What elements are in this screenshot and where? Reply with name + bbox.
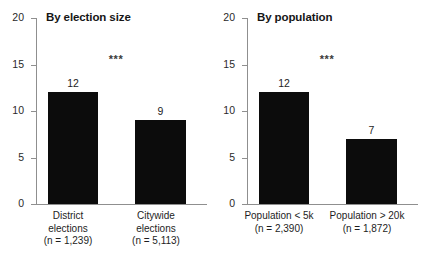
y-tick-5: 5	[242, 158, 247, 159]
y-tick-15: 15	[31, 65, 36, 66]
bar-citywide-elections: 9	[135, 120, 186, 204]
category-label-population-over-20k: Population > 20k (n = 1,872)	[314, 210, 420, 235]
category-name-line1: Citywide	[120, 210, 192, 223]
y-tick-10: 10	[31, 111, 36, 112]
bar-population-over-20k: 7	[346, 139, 397, 204]
y-tick-5: 5	[31, 158, 36, 159]
x-axis-line	[36, 204, 207, 205]
x-axis-line	[247, 204, 418, 205]
panel-by-election-size: By election size 20 15 10 5 0 12	[0, 0, 211, 262]
y-tick-label-15: 15	[223, 58, 235, 70]
y-tick-10: 10	[242, 111, 247, 112]
bar-value-label: 12	[278, 77, 290, 89]
category-note: (n = 5,113)	[120, 235, 192, 248]
category-name-line1: District	[33, 210, 103, 223]
category-name-line2: elections	[33, 223, 103, 236]
category-note: (n = 1,872)	[314, 223, 420, 236]
y-tick-label-5: 5	[229, 151, 235, 163]
significance-marker: ***	[320, 53, 334, 65]
panel-by-population: By population 20 15 10 5 0 12	[211, 0, 422, 262]
y-tick-label-20: 20	[12, 11, 24, 23]
bar-value-label: 7	[369, 124, 375, 136]
plot-area: 20 15 10 5 0 12 7 ***	[247, 18, 415, 204]
bar-value-label: 12	[67, 77, 79, 89]
y-tick-15: 15	[242, 65, 247, 66]
y-tick-label-10: 10	[223, 104, 235, 116]
bar-district-elections: 12	[48, 92, 98, 204]
bar-value-label: 9	[158, 105, 164, 117]
y-tick-20: 20	[31, 18, 36, 19]
significance-marker: ***	[109, 53, 123, 65]
category-name: Population > 20k	[314, 210, 420, 223]
y-tick-0: 0	[242, 204, 247, 205]
bar-chart-figure: By election size 20 15 10 5 0 12	[0, 0, 422, 262]
y-tick-label-5: 5	[18, 151, 24, 163]
y-tick-label-0: 0	[18, 197, 24, 209]
y-tick-label-20: 20	[223, 11, 235, 23]
category-name-line2: elections	[120, 223, 192, 236]
category-label-citywide-elections: Citywide elections (n = 5,113)	[120, 210, 192, 248]
y-axis-line	[247, 18, 248, 204]
y-tick-label-0: 0	[229, 197, 235, 209]
y-tick-label-15: 15	[12, 58, 24, 70]
category-note: (n = 1,239)	[33, 235, 103, 248]
y-tick-0: 0	[31, 204, 36, 205]
y-tick-label-10: 10	[12, 104, 24, 116]
y-tick-20: 20	[242, 18, 247, 19]
category-label-district-elections: District elections (n = 1,239)	[33, 210, 103, 248]
y-axis-line	[36, 18, 37, 204]
plot-area: 20 15 10 5 0 12 9 ***	[36, 18, 204, 204]
bar-population-under-5k: 12	[259, 92, 309, 204]
